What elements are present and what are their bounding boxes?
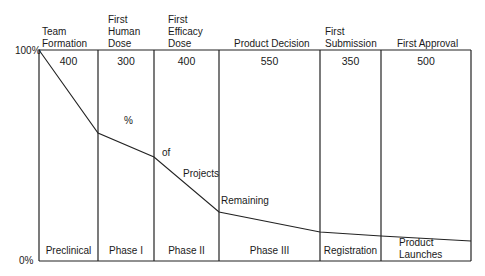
count-launches: 500 (381, 55, 471, 67)
annotation-of: of (162, 147, 170, 158)
phase-1: Phase I (98, 245, 154, 256)
count-phase-2: 400 (154, 55, 219, 67)
phase-preclinical: Preclinical (39, 245, 98, 256)
y-axis-top-label: 100% (15, 45, 41, 56)
milestone-first-efficacy-dose: First Efficacy Dose (168, 14, 203, 50)
phase-3: Phase III (219, 245, 320, 256)
annotation-remaining: Remaining (221, 195, 269, 206)
milestone-team-formation: Team Formation (42, 26, 87, 50)
count-preclinical: 400 (39, 55, 98, 67)
phase-product-launches: Product Launches (399, 237, 459, 261)
count-registration: 350 (320, 55, 381, 67)
phase-registration: Registration (320, 245, 381, 256)
milestone-first-approval: First Approval (397, 38, 458, 50)
annotation-projects: Projects (183, 168, 219, 179)
attrition-curve (39, 50, 471, 241)
milestone-product-decision: Product Decision (234, 38, 310, 50)
annotation-percent: % (124, 115, 133, 126)
count-phase-3: 550 (219, 55, 320, 67)
milestone-first-submission: First Submission (325, 26, 377, 50)
y-axis-bottom-label: 0% (19, 255, 33, 266)
milestone-first-human-dose: First Human Dose (108, 14, 140, 50)
phase-2: Phase II (154, 245, 219, 256)
count-phase-1: 300 (98, 55, 154, 67)
